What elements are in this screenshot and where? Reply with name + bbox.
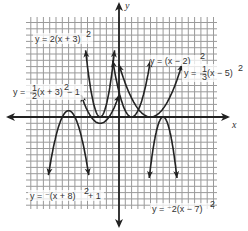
x-axis-label: x — [231, 119, 237, 130]
y-axis-label: y — [124, 0, 130, 11]
svg-text:y = ⁻2(x − 7): y = ⁻2(x − 7) — [152, 204, 203, 214]
svg-text:− 1: − 1 — [67, 87, 80, 97]
label-eq5: y = ⁻(x + 8) 2 + 1 — [28, 186, 104, 201]
svg-text:y =: y = — [184, 68, 196, 78]
svg-text:2: 2 — [86, 29, 91, 39]
svg-text:(x − 5): (x − 5) — [207, 68, 233, 78]
svg-text:+ 1: + 1 — [88, 191, 101, 201]
label-eq2: y = 1 2 (x + 3) 2 − 1 — [12, 82, 84, 101]
label-eq1: y = 2(x + 3) 2 — [33, 29, 93, 44]
svg-text:y =: y = — [13, 87, 25, 97]
svg-text:2: 2 — [200, 51, 205, 61]
parabolas — [47, 50, 183, 178]
svg-text:y = 2(x + 3): y = 2(x + 3) — [35, 34, 81, 44]
grid — [26, 17, 217, 209]
svg-text:(x + 3): (x + 3) — [37, 87, 63, 97]
label-eq6: y = ⁻2(x − 7) 2 — [150, 199, 215, 214]
svg-text:y = ⁻(x + 8): y = ⁻(x + 8) — [30, 191, 76, 201]
label-eq4: y = 1 3 (x − 5) 2 — [182, 63, 243, 82]
coordinate-plane: y x y = 2(x + 3) 2 y = 1 2 (x + 3) 2 − 1… — [0, 0, 248, 231]
label-eq3: y = (x − 2) 2 — [150, 51, 205, 66]
svg-text:2: 2 — [238, 63, 243, 73]
svg-text:2: 2 — [210, 199, 215, 209]
